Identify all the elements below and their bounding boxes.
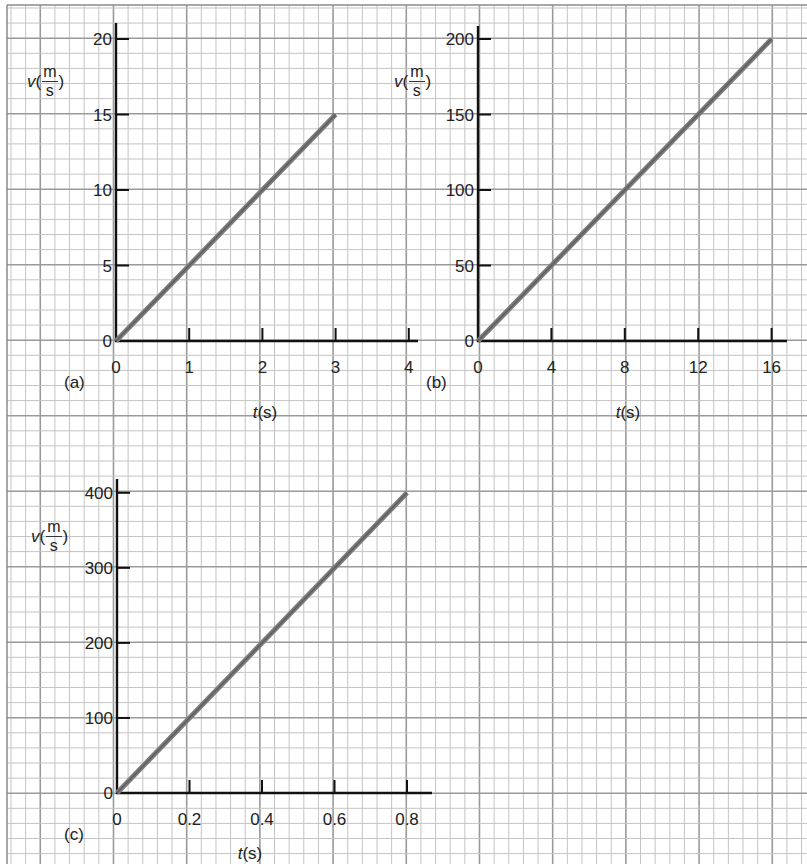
y-axis-variable: v [27,73,36,90]
x-axis-label: t(s) [253,404,278,421]
y-axis-variable: v [394,73,403,90]
panel-tag: (b) [426,374,447,391]
x-axis-label: t(s) [616,404,641,421]
y-tick-label: 50 [455,257,474,274]
unit-fraction: ms [42,64,57,99]
y-tick-label: 200 [446,31,474,48]
panel-tag: (a) [64,374,85,391]
x-tick-label: 3 [331,359,340,376]
x-tick-label: 0 [112,811,121,828]
y-tick-label: 0 [465,333,474,350]
x-tick-label: 4 [547,359,556,376]
y-tick-label: 200 [85,634,113,651]
unit-fraction: ms [46,519,61,554]
y-axis-label: v(ms) [394,64,431,99]
x-tick-label: 0.8 [395,811,419,828]
x-tick-label: 4 [404,359,413,376]
x-tick-label: 0 [473,359,482,376]
x-tick-label: 8 [620,359,629,376]
plot-layer [0,0,807,864]
x-tick-label: 2 [258,359,267,376]
graph-paper-figure: v(ms) t(s) (a) 05101520 01234 v(ms) t(s)… [0,0,807,864]
y-axis-variable: v [31,528,40,545]
y-tick-label: 400 [85,484,113,501]
y-tick-label: 20 [93,31,112,48]
y-tick-label: 100 [446,182,474,199]
y-tick-label: 15 [93,106,112,123]
panel-tag: (c) [64,826,84,843]
x-tick-label: 12 [689,359,708,376]
y-tick-label: 150 [446,106,474,123]
x-tick-label: 16 [762,359,781,376]
y-tick-label: 300 [85,559,113,576]
y-tick-label: 0 [103,333,112,350]
x-tick-label: 0.6 [323,811,347,828]
y-tick-label: 100 [85,709,113,726]
y-tick-label: 0 [104,785,113,802]
x-tick-label: 0.2 [178,811,202,828]
x-tick-label: 0 [111,359,120,376]
x-tick-label: 1 [184,359,193,376]
y-tick-label: 10 [93,182,112,199]
x-axis-label: t(s) [238,845,263,862]
x-tick-label: 0.4 [250,811,274,828]
y-axis-label: v(ms) [31,519,68,554]
unit-fraction: ms [409,64,424,99]
y-axis-label: v(ms) [27,64,64,99]
y-tick-label: 5 [103,257,112,274]
